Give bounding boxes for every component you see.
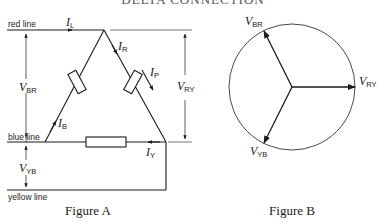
figure-b-phasor-diagram xyxy=(229,24,355,150)
blue-line-label: blue line xyxy=(8,132,40,142)
phasor-vbr-label: VBR xyxy=(245,14,263,29)
delta-connection-diagram: DELTA CONNECTION xyxy=(0,0,387,223)
current-iy-label: IY xyxy=(145,145,155,160)
resistor-ry xyxy=(124,70,143,94)
page-title: DELTA CONNECTION xyxy=(121,0,264,7)
red-line-label: red line xyxy=(8,19,36,29)
resistor-yb xyxy=(86,137,126,147)
figure-a xyxy=(7,30,192,190)
phasor-vyb-label: VYB xyxy=(250,144,267,159)
figure-b-caption: Figure B xyxy=(269,203,315,218)
resistor-br xyxy=(68,70,86,94)
yellow-line-label: yellow line xyxy=(8,192,47,202)
phasor-vbr xyxy=(264,31,292,87)
current-ib-label: IB xyxy=(57,116,67,131)
phasor-vry-label: VRY xyxy=(359,74,377,89)
current-il-label: IL xyxy=(65,15,74,30)
phasor-vyb xyxy=(264,87,292,143)
current-ir-label: IR xyxy=(117,39,128,54)
figure-a-caption: Figure A xyxy=(65,203,111,218)
current-ip-label: IP xyxy=(149,65,159,80)
voltage-vyb-label: VYB xyxy=(19,161,36,176)
